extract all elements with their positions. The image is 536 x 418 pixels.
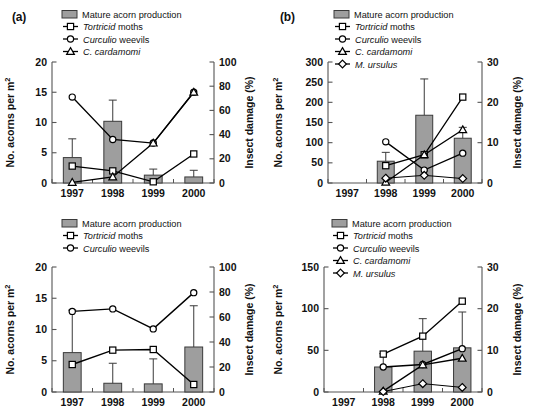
axes: 051015200204060801001997199819992000No. … xyxy=(3,261,255,408)
y-tick-label: 50 xyxy=(311,156,323,168)
series-marker xyxy=(69,361,75,367)
y2-axis-title: Insect damage (%) xyxy=(243,283,255,375)
legend-entry: C. cardamomi xyxy=(335,47,413,57)
legend-label: C. cardamomi xyxy=(355,47,413,57)
figure-root: (a) 051015200204060801001997199819992000… xyxy=(0,0,536,418)
line-series-group xyxy=(69,290,197,388)
y-tick-label: 15 xyxy=(35,86,47,98)
legend: Mature acorn productionTortricid mothsCu… xyxy=(334,10,454,70)
legend-entry: Tortricid moths xyxy=(333,231,413,241)
y2-tick-label: 30 xyxy=(487,261,499,273)
legend-entry: Curculio weevils xyxy=(335,35,422,45)
error-bar xyxy=(68,310,76,353)
legend-label: Curculio weevils xyxy=(83,244,150,254)
bar xyxy=(104,383,122,392)
series-marker xyxy=(110,347,116,353)
x-tick-label: 1999 xyxy=(411,396,435,408)
legend-entry: M. ursulus xyxy=(335,60,398,70)
y-tick-label: 5 xyxy=(41,354,47,366)
y-axis-title: No. acorns per m2 xyxy=(271,285,284,375)
y2-tick-label: 0 xyxy=(487,177,493,189)
y-tick-label: 300 xyxy=(305,56,323,68)
y2-tick-label: 20 xyxy=(487,302,499,314)
series-marker xyxy=(69,94,75,100)
series-marker xyxy=(110,136,116,142)
y-axis-title: No. acorns per m2 xyxy=(3,285,16,375)
legend-marker-square xyxy=(67,23,73,29)
series-line xyxy=(72,154,194,182)
y-tick-label: 5 xyxy=(41,146,47,158)
y2-tick-label: 100 xyxy=(219,261,237,273)
y2-axis-title: Insect damage (%) xyxy=(511,76,523,168)
panel-b-plot: 0501001502002503000102030199719981999200… xyxy=(268,0,536,209)
legend-label: Curculio weevils xyxy=(83,35,150,45)
series-line xyxy=(72,293,194,329)
y2-tick-label: 60 xyxy=(219,311,231,323)
x-tick-label: 1998 xyxy=(372,396,396,408)
panel-d: 05010015001020301997199819992000No. acor… xyxy=(268,209,536,418)
series-line xyxy=(72,92,194,143)
y-tick-label: 15 xyxy=(35,292,47,304)
series-marker xyxy=(380,364,386,370)
series-marker xyxy=(383,139,389,145)
series-marker xyxy=(150,346,156,352)
legend-marker-square xyxy=(339,23,345,29)
axes: 051015200204060801001997199819992000No. … xyxy=(3,56,255,199)
legend-entry: C. cardamomi xyxy=(63,47,141,57)
y-axis-title: No. acorns per m2 xyxy=(3,78,16,168)
legend-entry: Tortricid moths xyxy=(335,22,415,32)
legend-label: C. cardamomi xyxy=(83,47,141,57)
legend-entry: Tortricid moths xyxy=(63,231,143,241)
y2-tick-label: 30 xyxy=(487,56,499,68)
series-marker xyxy=(459,298,465,304)
error-bar xyxy=(68,139,76,158)
bar xyxy=(185,177,203,183)
legend-swatch-bar xyxy=(332,220,347,228)
x-tick-label: 2000 xyxy=(182,396,206,408)
panel-c: 051015200204060801001997199819992000No. … xyxy=(0,209,268,418)
y-tick-label: 200 xyxy=(305,96,323,108)
legend-label: M. ursulus xyxy=(353,269,396,279)
series-marker xyxy=(460,150,466,156)
legend-label: M. ursulus xyxy=(355,60,398,70)
y2-tick-label: 10 xyxy=(487,136,499,148)
y-tick-label: 0 xyxy=(41,177,47,189)
series-marker xyxy=(380,351,386,357)
series-marker xyxy=(191,290,197,296)
y2-tick-label: 0 xyxy=(487,386,493,398)
series-marker xyxy=(459,346,465,352)
y-tick-label: 0 xyxy=(317,177,323,189)
series-marker xyxy=(460,94,466,100)
y2-tick-label: 40 xyxy=(219,128,231,140)
legend-swatch-bar xyxy=(334,11,349,19)
x-tick-label: 2000 xyxy=(451,187,475,199)
y-tick-label: 150 xyxy=(305,116,323,128)
error-bar xyxy=(149,359,157,384)
legend-marker-circle xyxy=(337,245,343,251)
y-tick-label: 0 xyxy=(313,386,319,398)
legend-label: Tortricid moths xyxy=(355,22,415,32)
series-marker xyxy=(420,333,426,339)
y2-tick-label: 80 xyxy=(219,286,231,298)
legend-entry: Tortricid moths xyxy=(63,22,143,32)
line-series-group xyxy=(68,88,197,185)
y-tick-label: 0 xyxy=(41,386,47,398)
legend-label: Tortricid moths xyxy=(83,231,143,241)
x-tick-label: 1997 xyxy=(336,187,360,199)
error-bar xyxy=(109,363,117,383)
y2-tick-label: 100 xyxy=(219,56,237,68)
panel-c-plot: 051015200204060801001997199819992000No. … xyxy=(0,209,268,418)
error-bar xyxy=(458,312,466,348)
legend-entry: Curculio weevils xyxy=(333,244,420,254)
legend-label: C. cardamomi xyxy=(353,256,411,266)
panel-b: (b) 050100150200250300010203019971998199… xyxy=(268,0,536,209)
error-bar xyxy=(149,169,157,175)
y2-tick-label: 20 xyxy=(219,361,231,373)
error-bar xyxy=(420,79,428,115)
y-tick-label: 100 xyxy=(301,302,319,314)
series-marker xyxy=(191,151,197,157)
legend-marker-circle xyxy=(67,245,73,251)
legend-label-bar: Mature acorn production xyxy=(82,10,182,20)
legend-label-bar: Mature acorn production xyxy=(352,219,452,229)
series-marker xyxy=(150,179,156,185)
